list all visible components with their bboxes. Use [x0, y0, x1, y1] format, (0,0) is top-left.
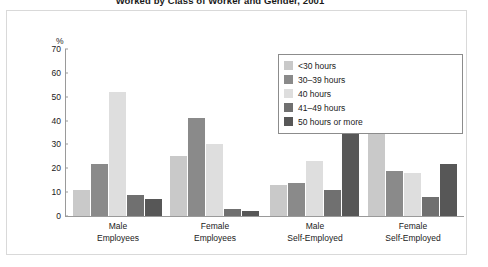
- y-axis-tickmark-50: [65, 96, 68, 97]
- bar: [109, 92, 126, 216]
- legend-column-left: <30 hours30–39 hours40 hours: [284, 59, 367, 101]
- legend-swatch: [284, 75, 293, 84]
- legend-swatch: [284, 103, 293, 112]
- y-axis-tick-30: 30: [37, 139, 61, 149]
- bar: [224, 209, 241, 216]
- y-axis-tickmark-60: [65, 72, 68, 73]
- chart-legend: <30 hours30–39 hours40 hours 41–49 hours…: [278, 54, 463, 134]
- legend-swatch: [284, 61, 293, 70]
- y-axis-tick-40: 40: [37, 116, 61, 126]
- y-axis-tickmark-40: [65, 120, 68, 121]
- bar: [386, 171, 403, 216]
- x-axis-group-label: FemaleSelf-Employed: [343, 221, 483, 244]
- legend-item: 41–49 hours: [284, 101, 376, 114]
- bar: [404, 173, 421, 216]
- bar: [145, 199, 162, 216]
- y-axis-tickmark-0: [65, 216, 68, 217]
- chart-frame: % 010203040506070 <30 hours30–39 hours40…: [6, 10, 467, 255]
- bar: [188, 118, 205, 216]
- y-axis-tick-60: 60: [37, 68, 61, 78]
- legend-item: 40 hours: [284, 87, 367, 100]
- bar: [270, 185, 287, 216]
- y-axis-tick-50: 50: [37, 92, 61, 102]
- legend-label: 50 hours or more: [298, 117, 363, 127]
- y-axis-tick-labels: 010203040506070: [33, 49, 61, 217]
- x-axis-line: [65, 216, 464, 217]
- legend-swatch: [284, 89, 293, 98]
- y-axis-tickmark-10: [65, 192, 68, 193]
- legend-item: 50 hours or more: [284, 115, 376, 128]
- legend-label: 40 hours: [298, 89, 331, 99]
- y-axis-tickmark-30: [65, 144, 68, 145]
- y-axis-tickmark-70: [65, 49, 68, 50]
- y-axis-tick-10: 10: [37, 187, 61, 197]
- bar-group-female-employees: [170, 49, 260, 216]
- bar: [127, 195, 144, 216]
- bar: [440, 164, 457, 216]
- y-axis-tick-70: 70: [37, 44, 61, 54]
- legend-item: <30 hours: [284, 59, 367, 72]
- y-axis-tickmark-20: [65, 168, 68, 169]
- legend-label: 41–49 hours: [298, 103, 345, 113]
- chart-title: Worked by Class of Worker and Gender, 20…: [0, 0, 440, 6]
- bar: [422, 197, 439, 216]
- bar: [306, 161, 323, 216]
- bar-group-male-employees: [73, 49, 163, 216]
- legend-label: <30 hours: [298, 61, 336, 71]
- y-axis-tick-20: 20: [37, 163, 61, 173]
- legend-column-right: 41–49 hours50 hours or more: [284, 101, 376, 129]
- bar: [368, 133, 385, 217]
- legend-item: 30–39 hours: [284, 73, 367, 86]
- bar: [206, 144, 223, 216]
- y-axis-tick-0: 0: [37, 211, 61, 221]
- legend-swatch: [284, 117, 293, 126]
- bar: [288, 183, 305, 216]
- bar: [324, 190, 341, 216]
- bar: [242, 211, 259, 216]
- bar: [91, 164, 108, 216]
- legend-label: 30–39 hours: [298, 75, 345, 85]
- bar: [170, 156, 187, 216]
- bar: [73, 190, 90, 216]
